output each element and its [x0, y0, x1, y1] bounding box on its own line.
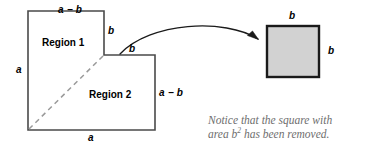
curved-arrow-shaft	[120, 26, 258, 54]
geometry-figure: a − b a a b b a − b Region 1 Region 2 b …	[0, 0, 367, 159]
label-right-side: a − b	[159, 88, 183, 98]
label-region-one: Region 1	[42, 38, 84, 48]
label-top-side: a − b	[58, 5, 82, 15]
caption-line-two-suffix: has been removed.	[241, 128, 329, 140]
removed-square-shape	[267, 26, 319, 77]
caption-line-two-prefix: area b	[208, 128, 237, 140]
curved-arrow-head	[248, 31, 259, 40]
label-square-top: b	[289, 11, 295, 21]
figure-caption: Notice that the square with area b2 has …	[208, 114, 358, 141]
label-left-side: a	[16, 65, 22, 75]
caption-line-one: Notice that the square with	[208, 114, 332, 126]
label-bottom-side: a	[88, 133, 94, 143]
label-square-right: b	[328, 46, 334, 56]
label-region-two: Region 2	[89, 90, 131, 100]
l-shaped-region-outline	[28, 11, 155, 130]
label-notch-horizontal: b	[129, 44, 135, 54]
label-notch-vertical: b	[108, 26, 114, 36]
